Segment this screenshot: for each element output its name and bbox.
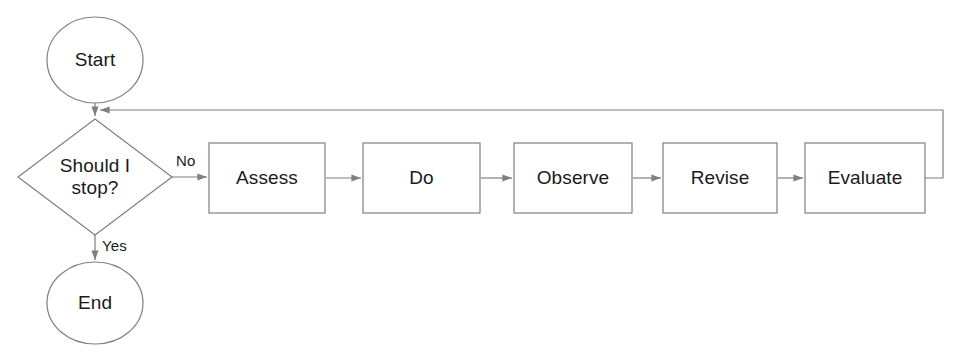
decision-node-shape bbox=[18, 119, 172, 235]
start-node-shape bbox=[47, 17, 143, 103]
flowchart-diagram: Start Should I stop? End Assess Do Obser… bbox=[0, 0, 965, 354]
assess-node-shape bbox=[209, 143, 325, 213]
evaluate-node-shape bbox=[805, 143, 925, 213]
flowchart-graphics bbox=[0, 0, 965, 354]
end-node-shape bbox=[47, 262, 143, 344]
do-node-shape bbox=[363, 143, 480, 213]
observe-node-shape bbox=[514, 143, 632, 213]
revise-node-shape bbox=[663, 143, 777, 213]
